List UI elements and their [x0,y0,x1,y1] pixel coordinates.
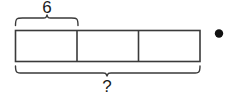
bar-segment-2 [77,31,139,62]
bar-segment-3 [139,31,201,62]
tape-diagram-svg: 6 ? [0,0,231,102]
bottom-brace-path [16,66,201,76]
bar-segment-1 [16,31,78,62]
bullet-dot-icon [215,29,223,37]
tape-diagram-figure: 6 ? [0,0,231,102]
bottom-brace-label: ? [102,77,111,96]
top-brace-label: 6 [42,0,51,17]
bottom-brace [16,66,201,76]
